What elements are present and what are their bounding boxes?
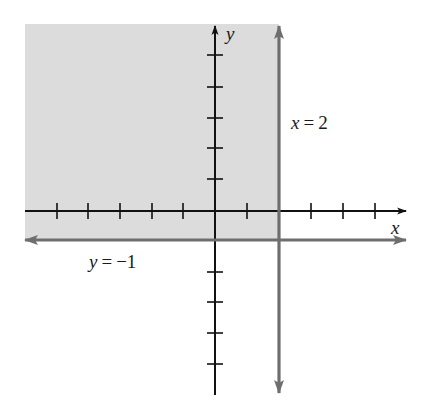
label-y-equals-neg1: y=−1 (87, 251, 136, 272)
label-x-equals-2: x=2 (290, 112, 328, 133)
y-axis-label: y (224, 23, 235, 44)
x-axis-label: x (390, 217, 400, 238)
inequality-graph: y x x=2 y=−1 (0, 0, 425, 414)
